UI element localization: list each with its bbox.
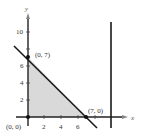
point-label-0-0: (0, 0): [6, 123, 22, 131]
y-tick-label-10: 10: [16, 28, 24, 36]
vertex-0-0: [26, 115, 30, 119]
x-axis-label: x: [130, 114, 135, 122]
x-axis-arrow-icon: [122, 115, 128, 119]
y-axis-label: y: [24, 5, 29, 13]
vertex-0-7: [26, 55, 30, 59]
x-tick-label-4: 4: [59, 123, 63, 131]
feasible-region-graph: 2 4 6 2 4 6 10 x y (0, 7) (7, 0) (0, 0): [0, 0, 143, 136]
x-tick-label-6: 6: [76, 123, 80, 131]
x-tick-label-2: 2: [42, 123, 46, 131]
vertex-7-0: [84, 115, 88, 119]
y-axis-arrow-icon: [26, 13, 30, 19]
chart-svg: 2 4 6 2 4 6 10 x y (0, 7) (7, 0) (0, 0): [0, 0, 143, 136]
y-tick-label-4: 4: [20, 79, 24, 87]
y-tick-label-6: 6: [20, 62, 24, 70]
point-label-0-7: (0, 7): [35, 51, 51, 59]
point-label-7-0: (7, 0): [88, 107, 104, 115]
y-tick-label-2: 2: [20, 96, 24, 104]
